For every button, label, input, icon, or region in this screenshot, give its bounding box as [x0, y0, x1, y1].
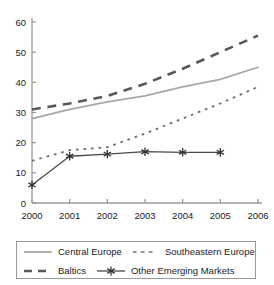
series-markers-3 [28, 148, 224, 190]
x-tick-label: 2000 [21, 210, 42, 221]
y-tick-label: 10 [15, 167, 26, 178]
y-tick-label: 20 [15, 137, 26, 148]
legend-entry-central-europe[interactable]: Central Europe [23, 242, 122, 261]
legend-entry-baltics[interactable]: Baltics [23, 261, 86, 280]
legend-swatch-southeastern-europe [130, 246, 160, 258]
plot-svg: 0102030405060200020012002200320042005200… [0, 0, 274, 232]
legend-label-southeastern-europe: Southeastern Europe [165, 246, 255, 257]
series-line-0 [32, 67, 258, 118]
x-tick-label: 2005 [210, 210, 231, 221]
series-line-2 [32, 36, 258, 110]
legend-row-1: Central Europe Southeastern Europe [17, 242, 255, 261]
line-chart: 0102030405060200020012002200320042005200… [0, 0, 274, 285]
legend-label-other-emerging-markets: Other Emerging Markets [131, 265, 234, 276]
x-tick-label: 2003 [134, 210, 155, 221]
legend-entry-southeastern-europe[interactable]: Southeastern Europe [130, 242, 255, 261]
legend-label-baltics: Baltics [58, 265, 86, 276]
legend-swatch-other-emerging-markets [96, 265, 126, 277]
x-tick-label: 2001 [59, 210, 80, 221]
plot-area: 0102030405060200020012002200320042005200… [0, 0, 274, 232]
y-tick-label: 60 [15, 17, 26, 28]
legend-swatch-central-europe [23, 246, 53, 258]
legend-swatch-baltics [23, 265, 53, 277]
x-tick-label: 2006 [247, 210, 268, 221]
y-tick-label: 40 [15, 77, 26, 88]
y-tick-label: 30 [15, 107, 26, 118]
x-tick-label: 2004 [172, 210, 193, 221]
series-line-3 [32, 152, 220, 185]
legend-row-2: Baltics Other Emerging Markets [17, 261, 255, 280]
y-tick-label: 50 [15, 47, 26, 58]
legend-entry-other-emerging-markets[interactable]: Other Emerging Markets [96, 261, 234, 280]
y-tick-label: 0 [21, 198, 26, 209]
chart-legend: Central Europe Southeastern Europe Balti… [16, 241, 256, 279]
x-tick-label: 2002 [97, 210, 118, 221]
legend-label-central-europe: Central Europe [58, 246, 122, 257]
